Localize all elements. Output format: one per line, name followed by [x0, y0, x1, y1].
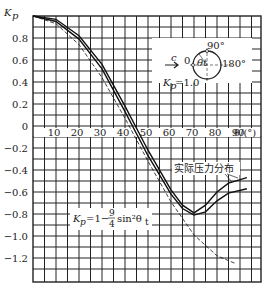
y-tick-label: −0.8 — [4, 209, 28, 220]
formula-t: t — [145, 217, 149, 227]
formula-den: 4 — [109, 219, 115, 229]
angle-180: 180° — [222, 58, 246, 69]
formula-rest: =1− — [86, 213, 109, 224]
x-tick-label: 30 — [94, 127, 107, 138]
y-tick-label: −0.2 — [4, 143, 28, 154]
actual-label: 实际压力分布 — [174, 162, 234, 174]
y-tick-label: −0.6 — [4, 187, 28, 198]
y-tick-label: 0 — [22, 121, 28, 132]
x-tick-label: 10 — [48, 127, 61, 138]
x-tick-labels-overlay: 102030405060708090 — [48, 127, 245, 138]
x-tick-label: 80 — [209, 127, 222, 138]
y-tick-label: 0.4 — [12, 77, 28, 88]
y-tick-label: −1.2 — [4, 253, 28, 264]
formula-num: 9 — [109, 208, 115, 218]
y-tick-label: 0.8 — [12, 33, 28, 44]
inset-value: =1.0 — [175, 77, 199, 88]
y-tick-label: 0.6 — [12, 55, 28, 66]
y-tick-labels: 0.80.60.40.20−0.2−0.4−0.6−0.8−1.0−1.2 — [4, 33, 28, 264]
x-axis-label: θ/(°) — [234, 127, 256, 138]
x-tick-label: 20 — [71, 127, 84, 138]
x-tick-label: 70 — [186, 127, 199, 138]
pressure-coefficient-chart: 0.80.60.40.20−0.2−0.4−0.6−0.8−1.0−1.2 10… — [0, 0, 269, 294]
angle-theta: θt — [197, 57, 208, 68]
x-tick-label: 60 — [163, 127, 176, 138]
formula-sin: sin²θ — [117, 213, 142, 224]
y-tick-label: −1.0 — [4, 231, 28, 242]
angle-0: 0 — [184, 55, 190, 66]
y-tick-label: −0.4 — [4, 165, 28, 176]
y-tick-label: 0.2 — [12, 99, 28, 110]
y-axis-sub: p — [12, 10, 19, 21]
x-tick-label: 40 — [117, 127, 130, 138]
flow-label: c — [171, 52, 177, 63]
y-axis-label: K — [3, 7, 12, 18]
angle-90: 90° — [207, 40, 225, 51]
